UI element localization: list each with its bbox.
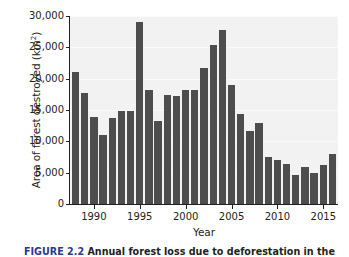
x-axis-tick-mark xyxy=(94,205,95,209)
bar xyxy=(127,111,134,204)
bar xyxy=(90,117,97,204)
x-axis-tick-label: 2015 xyxy=(303,211,343,222)
y-axis-tick-mark xyxy=(66,110,70,111)
bar xyxy=(274,160,281,204)
y-axis-tick-label: 20,000 xyxy=(29,74,64,84)
bar xyxy=(191,90,198,204)
figure-caption-label: FIGURE 2.2 xyxy=(24,246,84,257)
y-axis-tick-mark xyxy=(66,79,70,80)
x-axis-tick-mark xyxy=(323,205,324,209)
bar xyxy=(200,68,207,204)
bar xyxy=(173,96,180,204)
x-axis-tick-mark xyxy=(186,205,187,209)
y-axis-tick-label: 30,000 xyxy=(29,11,64,21)
x-axis-tick-mark xyxy=(277,205,278,209)
bar xyxy=(99,135,106,204)
figure-container: Area of forest destroyed (km2) 05,00010,… xyxy=(0,0,349,257)
x-axis-tick-label: 2010 xyxy=(257,211,297,222)
x-axis-title: Year xyxy=(70,226,338,238)
bar xyxy=(210,45,217,204)
bar xyxy=(118,111,125,204)
bar xyxy=(228,85,235,204)
y-axis-tick-mark xyxy=(66,141,70,142)
x-axis-tick-label: 1990 xyxy=(74,211,114,222)
plot-area xyxy=(70,16,338,204)
bar xyxy=(310,173,317,204)
bar xyxy=(182,90,189,204)
bar-series xyxy=(70,16,338,204)
bar xyxy=(237,114,244,204)
bar xyxy=(292,175,299,204)
bar xyxy=(329,154,336,204)
x-axis-tick-mark xyxy=(232,205,233,209)
bar xyxy=(301,167,308,204)
x-axis-tick-label: 1995 xyxy=(120,211,160,222)
bar xyxy=(136,22,143,204)
bar xyxy=(81,93,88,204)
y-axis-tick-label: 10,000 xyxy=(29,136,64,146)
bar xyxy=(164,95,171,204)
figure-caption: FIGURE 2.2 Annual forest loss due to def… xyxy=(24,246,336,257)
y-axis-tick-label: 15,000 xyxy=(29,105,64,115)
figure-caption-text: Annual forest loss due to deforestation … xyxy=(87,246,336,257)
y-axis-tick-label: 5,000 xyxy=(35,168,64,178)
y-axis-tick-mark xyxy=(66,204,70,205)
x-axis-line xyxy=(69,204,338,205)
x-axis-tick-label: 2000 xyxy=(166,211,206,222)
y-axis-tick-label: 0 xyxy=(58,199,64,209)
bar xyxy=(145,90,152,204)
bar xyxy=(109,118,116,204)
bar xyxy=(320,165,327,204)
bar xyxy=(154,121,161,204)
y-axis-tick-mark xyxy=(66,16,70,17)
bar xyxy=(72,72,79,204)
bar xyxy=(255,123,262,204)
y-axis-tick-label: 25,000 xyxy=(29,42,64,52)
bar xyxy=(265,157,272,204)
y-axis-tick-labels: 05,00010,00015,00020,00025,00030,000 xyxy=(22,0,64,257)
bar xyxy=(219,30,226,204)
y-axis-tick-mark xyxy=(66,47,70,48)
bar xyxy=(283,164,290,204)
x-axis-tick-mark xyxy=(140,205,141,209)
y-axis-tick-mark xyxy=(66,173,70,174)
bar xyxy=(246,131,253,204)
x-axis-tick-label: 2005 xyxy=(212,211,252,222)
